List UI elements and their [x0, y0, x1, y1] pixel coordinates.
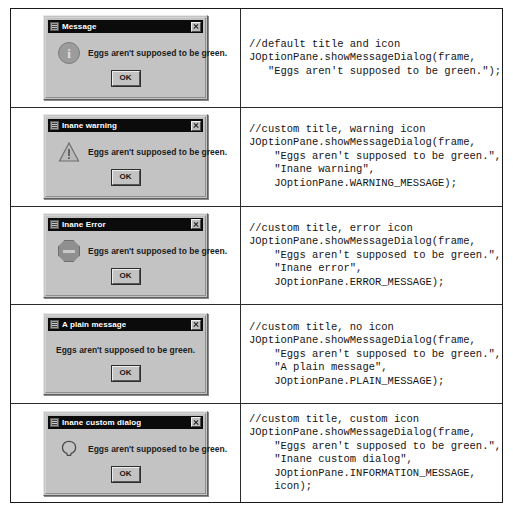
dialog-preview-cell: Inane warning	[11, 108, 241, 206]
dialog-title: Message	[62, 20, 97, 33]
ok-button[interactable]: OK	[112, 71, 140, 86]
dialog-preview-cell: Inane Error Eggs aren't supposed to be g…	[11, 207, 241, 305]
dialog-body: Eggs aren't supposed to be green.	[48, 132, 203, 169]
dialog-frame: Message Eggs aren't supposed to be green…	[45, 17, 206, 98]
message-dialog[interactable]: Message Eggs aren't supposed to be green…	[43, 15, 208, 100]
warning-icon	[58, 141, 80, 163]
code-snippet: //custom title, no icon JOptionPane.show…	[249, 321, 501, 389]
ok-button[interactable]: OK	[112, 170, 140, 185]
close-icon[interactable]	[191, 417, 201, 427]
page-root: Message Eggs aren't supposed to be green…	[0, 0, 513, 511]
window-menu-icon[interactable]	[50, 121, 59, 130]
dialog-button-row: OK	[48, 365, 203, 390]
table-row: Inane Error Eggs aren't supposed to be g…	[11, 207, 502, 306]
dialog-message: Eggs aren't supposed to be green.	[88, 147, 227, 157]
close-icon[interactable]	[191, 320, 201, 330]
ok-button[interactable]: OK	[112, 467, 140, 482]
dialog-button-row: OK	[48, 268, 203, 293]
info-icon	[58, 42, 80, 64]
dialog-body: Eggs aren't supposed to be green.	[48, 429, 203, 466]
dialog-titlebar[interactable]: Inane warning	[48, 119, 203, 132]
ok-button[interactable]: OK	[112, 366, 140, 381]
close-icon[interactable]	[191, 22, 201, 32]
code-snippet: //custom title, custom icon JOptionPane.…	[249, 413, 501, 494]
dialog-title: Inane warning	[62, 119, 117, 132]
dialog-titlebar[interactable]: Message	[48, 20, 203, 33]
dialog-preview-cell: Inane custom dialog Eggs aren't supposed…	[11, 404, 241, 502]
dialog-frame: Inane custom dialog Eggs aren't supposed…	[45, 413, 206, 494]
message-dialog[interactable]: Inane warning	[43, 114, 208, 199]
dialog-preview-cell: Message Eggs aren't supposed to be green…	[11, 9, 241, 107]
window-menu-icon[interactable]	[50, 22, 59, 31]
error-icon	[58, 240, 80, 262]
dialog-button-row: OK	[48, 466, 203, 491]
dialog-title: A plain message	[62, 318, 126, 331]
code-cell: //default title and icon JOptionPane.sho…	[241, 9, 502, 107]
dialog-button-row: OK	[48, 169, 203, 194]
dialog-title: Inane Error	[62, 218, 106, 231]
dialog-titlebar[interactable]: A plain message	[48, 318, 203, 331]
window-menu-icon[interactable]	[50, 418, 59, 427]
dialog-body: Eggs aren't supposed to be green.	[48, 231, 203, 268]
dialog-body: Eggs aren't supposed to be green.	[48, 331, 203, 365]
examples-table: Message Eggs aren't supposed to be green…	[10, 8, 503, 503]
code-snippet: //default title and icon JOptionPane.sho…	[249, 38, 501, 79]
close-icon[interactable]	[191, 121, 201, 131]
dialog-frame: Inane warning	[45, 116, 206, 197]
window-menu-icon[interactable]	[50, 220, 59, 229]
message-dialog[interactable]: A plain message Eggs aren't supposed to …	[43, 313, 208, 395]
code-cell: //custom title, custom icon JOptionPane.…	[241, 404, 502, 502]
ok-button[interactable]: OK	[112, 269, 140, 284]
close-icon[interactable]	[191, 219, 201, 229]
table-row: A plain message Eggs aren't supposed to …	[11, 305, 502, 404]
code-cell: //custom title, warning icon JOptionPane…	[241, 108, 502, 206]
dialog-message: Eggs aren't supposed to be green.	[88, 48, 227, 58]
table-row: Inane warning	[11, 108, 502, 207]
message-dialog[interactable]: Inane custom dialog Eggs aren't supposed…	[43, 411, 208, 496]
dialog-preview-cell: A plain message Eggs aren't supposed to …	[11, 305, 241, 403]
table-row: Inane custom dialog Eggs aren't supposed…	[11, 404, 502, 502]
code-snippet: //custom title, error icon JOptionPane.s…	[249, 222, 501, 290]
dialog-frame: Inane Error Eggs aren't supposed to be g…	[45, 215, 206, 296]
dialog-message: Eggs aren't supposed to be green.	[56, 345, 195, 355]
dialog-body: Eggs aren't supposed to be green.	[48, 33, 203, 70]
dialog-frame: A plain message Eggs aren't supposed to …	[45, 315, 206, 393]
dialog-titlebar[interactable]: Inane Error	[48, 218, 203, 231]
table-row: Message Eggs aren't supposed to be green…	[11, 9, 502, 108]
dialog-message: Eggs aren't supposed to be green.	[88, 246, 227, 256]
code-snippet: //custom title, warning icon JOptionPane…	[249, 123, 501, 191]
dialog-title: Inane custom dialog	[62, 416, 141, 429]
message-dialog[interactable]: Inane Error Eggs aren't supposed to be g…	[43, 213, 208, 298]
window-menu-icon[interactable]	[50, 320, 59, 329]
code-cell: //custom title, no icon JOptionPane.show…	[241, 305, 502, 403]
dialog-titlebar[interactable]: Inane custom dialog	[48, 416, 203, 429]
dialog-message: Eggs aren't supposed to be green.	[88, 444, 227, 454]
custom-icon	[58, 438, 80, 460]
dialog-button-row: OK	[48, 70, 203, 95]
code-cell: //custom title, error icon JOptionPane.s…	[241, 207, 502, 305]
